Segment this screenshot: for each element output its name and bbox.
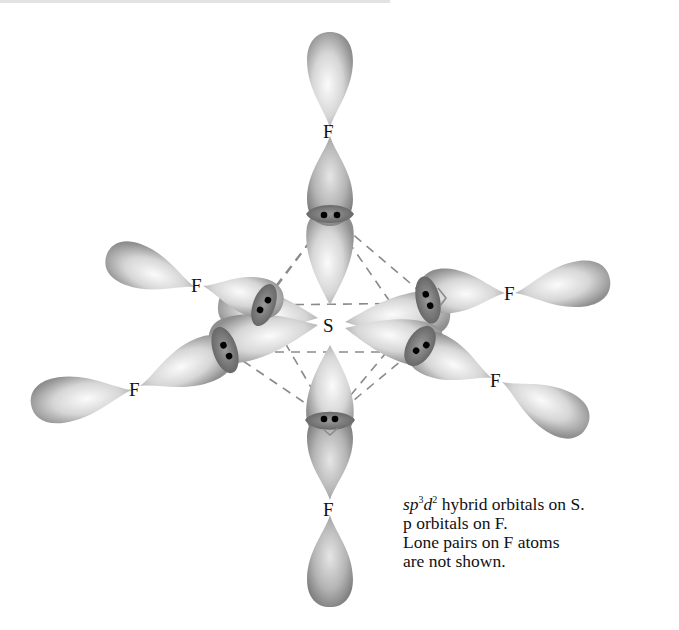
atom-label-f-upper-left: F	[191, 275, 202, 296]
caption-line-4: are not shown.	[403, 552, 585, 571]
figure-caption: sp3d2 hybrid orbitals on S. p orbitals o…	[403, 495, 585, 571]
f-top-outer-lobe	[307, 32, 353, 128]
caption-sp: sp	[403, 494, 419, 514]
electron-dot	[321, 416, 328, 423]
clipped-text-remnant	[0, 0, 390, 3]
f-upper-left-outer-lobe	[99, 234, 202, 307]
atom-label-f-bottom: F	[323, 499, 334, 520]
f-lower-left-outer-lobe	[28, 367, 135, 427]
caption-line-2: p orbitals on F.	[403, 514, 585, 533]
f-bottom-outer-lobe	[307, 515, 353, 607]
atom-label-f-lower-right: F	[490, 370, 501, 391]
electron-dot	[332, 416, 339, 423]
atom-label-s: S	[323, 315, 334, 336]
f-lower-right-outer-lobe	[491, 362, 597, 448]
caption-line-1-rest: hybrid orbitals on S.	[437, 494, 584, 514]
caption-d: d	[424, 494, 433, 514]
atom-label-f-upper-right: F	[504, 283, 515, 304]
electron-dot	[334, 212, 341, 219]
electron-dot	[321, 212, 328, 219]
caption-line-1: sp3d2 hybrid orbitals on S.	[403, 495, 585, 514]
atom-label-f-top: F	[323, 121, 334, 142]
f-upper-right-outer-lobe	[512, 257, 613, 316]
caption-line-3: Lone pairs on F atoms	[403, 533, 585, 552]
atom-label-f-lower-left: F	[129, 379, 140, 400]
